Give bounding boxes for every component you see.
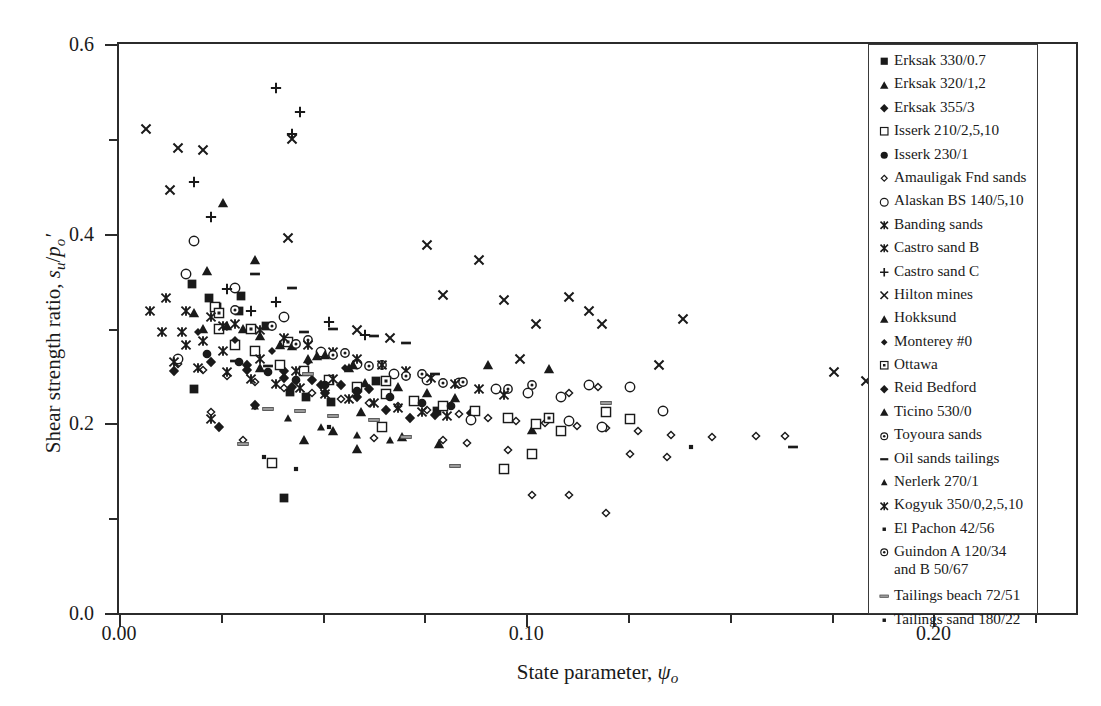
- legend-item[interactable]: Nerlerk 270/1: [875, 471, 1033, 494]
- filled-triangle-sm-icon: [875, 471, 894, 492]
- y-axis-tick-label: 0.2: [69, 412, 94, 435]
- legend-box: Erksak 330/0.7Erksak 320/1,2Erksak 355/3…: [868, 44, 1038, 614]
- data-point: [170, 141, 185, 156]
- data-point: [264, 344, 279, 359]
- legend-item-label: Erksak 320/1,2: [894, 73, 986, 92]
- legend-item[interactable]: Guindon A 120/34 and B 50/67: [875, 541, 1033, 585]
- x-axis-minor-tick: [424, 615, 426, 623]
- open-circle-icon: [875, 190, 894, 211]
- data-point: [285, 280, 300, 295]
- x-axis-minor-tick: [628, 615, 630, 623]
- legend-item[interactable]: Erksak 355/3: [875, 97, 1033, 120]
- data-point: [142, 304, 157, 319]
- legend-item-label: Kogyuk 350/0,2,5,10: [894, 494, 1023, 513]
- data-point: [293, 381, 308, 396]
- y-axis-tick: [105, 44, 117, 46]
- data-point: [594, 420, 609, 435]
- data-point: [366, 430, 381, 445]
- legend-item[interactable]: Alaskan BS 140/5,10: [875, 190, 1033, 213]
- x-axis-tick-label: 0.00: [102, 622, 137, 645]
- data-point: [321, 420, 336, 435]
- data-point: [704, 429, 719, 444]
- data-point: [138, 122, 153, 137]
- legend-item[interactable]: Hilton mines: [875, 284, 1033, 307]
- legend-item[interactable]: Castro sand B: [875, 237, 1033, 260]
- data-point: [268, 376, 283, 391]
- data-point: [203, 411, 218, 426]
- legend-item[interactable]: Ticino 530/0: [875, 401, 1033, 424]
- data-point: [179, 304, 194, 319]
- data-point: [390, 401, 405, 416]
- legend-item[interactable]: Tailings sand 180/22: [875, 609, 1033, 632]
- legend-item[interactable]: Hokksund: [875, 307, 1033, 330]
- data-point: [187, 382, 202, 397]
- y-axis-tick: [105, 234, 117, 236]
- legend-item[interactable]: Kogyuk 350/0,2,5,10: [875, 494, 1033, 517]
- data-point: [513, 351, 528, 366]
- data-point: [154, 325, 169, 340]
- legend-item-label: El Pachon 42/56: [894, 518, 994, 537]
- y-axis-tick-label: 0.4: [69, 222, 94, 245]
- legend-item[interactable]: Erksak 320/1,2: [875, 73, 1033, 96]
- legend-item-label: Hilton mines: [894, 284, 973, 303]
- filled-triangle-icon: [875, 307, 894, 328]
- y-axis-minor-tick: [109, 139, 117, 141]
- data-point: [480, 357, 495, 372]
- data-point: [598, 396, 613, 411]
- legend-item[interactable]: Monterey #0: [875, 331, 1033, 354]
- data-point: [191, 325, 206, 340]
- legend-item[interactable]: Amauligak Fnd sands: [875, 167, 1033, 190]
- data-point: [631, 423, 646, 438]
- data-point: [366, 329, 381, 344]
- legend-item[interactable]: Reid Bedford: [875, 377, 1033, 400]
- data-point: [260, 402, 275, 417]
- legend-item[interactable]: Isserk 230/1: [875, 144, 1033, 167]
- data-point: [203, 310, 218, 325]
- data-point: [785, 439, 800, 454]
- x-axis-minor-tick: [1035, 615, 1037, 623]
- legend-item-label: Castro sand C: [894, 261, 979, 280]
- y-axis-tick-label: 0.0: [69, 602, 94, 625]
- data-point: [256, 449, 271, 464]
- data-point: [382, 433, 397, 448]
- filled-diamond-icon: [875, 97, 894, 118]
- data-point: [496, 292, 511, 307]
- small-diamond-icon: [875, 167, 894, 188]
- legend-item[interactable]: Oil sands tailings: [875, 448, 1033, 471]
- y-axis-tick: [105, 423, 117, 425]
- legend-item[interactable]: El Pachon 42/56: [875, 518, 1033, 541]
- legend-item[interactable]: Tailings beach 72/51: [875, 585, 1033, 608]
- x-cross-icon: [875, 284, 894, 305]
- data-point: [598, 506, 613, 521]
- data-point: [293, 403, 308, 418]
- data-point: [561, 413, 576, 428]
- legend-item[interactable]: Toyoura sands: [875, 424, 1033, 447]
- legend-item[interactable]: Ottawa: [875, 354, 1033, 377]
- legend-item-label: Ticino 530/0: [894, 401, 972, 420]
- legend-item[interactable]: Erksak 330/0.7: [875, 50, 1033, 73]
- legend-item-label: Erksak 330/0.7: [894, 50, 986, 69]
- data-point: [561, 290, 576, 305]
- legend-item[interactable]: Isserk 210/2,5,10: [875, 120, 1033, 143]
- data-point: [525, 377, 540, 392]
- data-point: [525, 487, 540, 502]
- data-point: [382, 330, 397, 345]
- bowtie-icon: [875, 494, 894, 515]
- data-point: [655, 403, 670, 418]
- data-point: [199, 263, 214, 278]
- data-point: [228, 302, 243, 317]
- legend-item-label: Erksak 355/3: [894, 97, 975, 116]
- data-point: [350, 323, 365, 338]
- data-point: [378, 373, 393, 388]
- legend-item[interactable]: Castro sand C: [875, 261, 1033, 284]
- data-point: [268, 80, 283, 95]
- data-point: [187, 234, 202, 249]
- data-point: [219, 281, 234, 296]
- data-point: [419, 237, 434, 252]
- data-point: [191, 361, 206, 376]
- data-point: [203, 209, 218, 224]
- data-point: [525, 446, 540, 461]
- legend-item-label: Tailings sand 180/22: [894, 609, 1020, 628]
- legend-item[interactable]: Banding sands: [875, 214, 1033, 237]
- data-point: [187, 174, 202, 189]
